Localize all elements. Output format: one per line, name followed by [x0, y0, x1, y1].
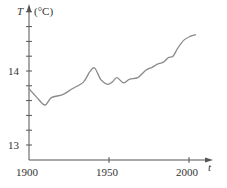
axis-ticks [26, 12, 189, 163]
y-tick-label-14: 14 [8, 65, 20, 77]
x-tick-label-1950: 1950 [96, 166, 119, 178]
axes [27, 4, 214, 163]
x-axis-variable-label: t [208, 161, 212, 173]
y-axis-unit-label: (°C) [34, 5, 53, 18]
y-axis-variable-label: T [17, 5, 24, 17]
temperature-curve [29, 35, 195, 105]
x-tick-label-2000: 2000 [176, 166, 199, 178]
temperature-chart: T (°C) 14 13 1900 1950 2000 t [0, 0, 227, 188]
y-tick-label-13: 13 [8, 139, 20, 151]
x-tick-label-1900: 1900 [16, 166, 39, 178]
